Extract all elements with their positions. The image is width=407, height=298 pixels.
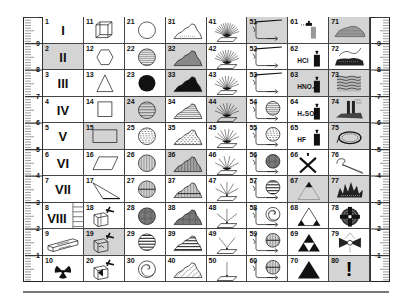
symbol-number: 13 [86,71,94,78]
symbol-cell-23: 23 [125,70,166,97]
ruler-label: 9 [36,40,40,47]
symbol-number: 58 [249,204,257,211]
symbol-number: 74 [331,98,339,105]
symbol-cell-27: 27 [125,176,166,203]
symbol-cell-4: 4IV [43,97,84,124]
ruler-label: 8 [36,66,40,73]
symbol-cell-42: 42 [207,44,248,71]
symbol-cell-22: 22 [125,44,166,71]
symbol-cell-39: 39 [166,229,207,256]
symbol-number: 64 [290,98,298,105]
symbol-cell-69: 69 [288,229,329,256]
roman-numeral: VI [43,156,83,171]
symbol-cell-80: 80! [329,256,370,283]
symbol-number: 62 [290,45,298,52]
symbol-cell-26: 26 [125,150,166,177]
symbol-cell-30: 30 [125,256,166,283]
symbol-number: 21 [127,18,135,25]
symbol-cell-14: 14 [84,97,125,124]
symbol-number: 22 [127,45,135,52]
symbol-cell-55: 55 [247,123,288,150]
symbol-cell-76: 76 [329,150,370,177]
symbol-number: 9 [45,230,49,237]
acid-label: H₂SO₄ [297,110,317,117]
ruler-label: 4 [36,172,40,179]
symbol-cell-32: 32 [166,44,207,71]
symbol-number: 30 [127,257,135,264]
roman-numeral: II [43,50,83,65]
ruler-label: 6 [36,119,40,126]
symbol-cell-2: 2II [43,44,84,71]
symbol-cell-74: 74 [329,97,370,124]
symbol-cell-52: 52 [247,44,288,71]
symbol-cell-12: 12 [84,44,125,71]
symbol-cell-34: 34 [166,97,207,124]
symbol-number: 11 [86,18,93,25]
symbol-number: 27 [127,177,135,184]
symbol-cell-59: 59 [247,229,288,256]
roman-numeral: V [43,129,83,144]
right-ruler: 987654321 [370,17,390,282]
symbol-number: 60 [249,257,257,264]
symbol-number: 35 [168,124,176,131]
symbol-number: 56 [249,151,257,158]
symbol-cell-19: 19 [84,229,125,256]
symbol-number: 59 [249,230,257,237]
symbol-number: 67 [290,177,298,184]
symbol-cell-33: 33 [166,70,207,97]
roman-numeral: III [43,76,83,91]
symbol-number: 23 [127,71,135,78]
symbol-number: 16 [86,151,94,158]
symbol-cell-35: 35 [166,123,207,150]
symbol-cell-49: 49 [207,229,248,256]
symbol-cell-79: 79 [329,229,370,256]
symbol-cell-57: 57 [247,176,288,203]
symbol-number: 71 [331,18,339,25]
symbol-cell-51: 51 [247,17,288,44]
symbol-number: 25 [127,124,135,131]
symbol-number: 66 [290,151,298,158]
exclamation-icon: ! [329,258,369,281]
ruler-label: 6 [377,119,381,126]
symbol-number: 26 [127,151,135,158]
roman-numeral: VII [43,182,83,197]
symbol-number: 38 [168,204,176,211]
acid-label: HNO₃ [297,83,314,90]
symbol-cell-25: 25 [125,123,166,150]
ruler-label: 5 [377,146,381,153]
symbol-number: 55 [249,124,257,131]
symbol-cell-8: 8VIII [43,203,84,230]
symbol-cell-75: 75 [329,123,370,150]
symbol-number: 10 [45,257,53,264]
acid-label: HCl [297,57,308,64]
symbol-number: 14 [86,98,94,105]
ruler-label: 1 [377,252,381,259]
symbol-cell-58: 58 [247,203,288,230]
symbol-cell-50: 50 [207,256,248,283]
symbol-number: 54 [249,98,257,105]
roman-numeral: I [43,23,83,38]
symbol-number: 29 [127,230,135,237]
symbol-number: 31 [168,18,176,25]
symbol-number: 32 [168,45,176,52]
symbol-number: 46 [209,151,217,158]
symbol-grid: 1I2II3III4IV5V6VI7VII8VIII91011121314151… [43,17,370,282]
symbol-number: 61 [290,18,298,25]
ruler-label: 3 [377,199,381,206]
symbol-number: 77 [331,177,339,184]
ruler-label: 5 [36,146,40,153]
symbol-cell-44: 44 [207,97,248,124]
symbol-cell-31: 31 [166,17,207,44]
symbol-cell-72: 72 [329,44,370,71]
symbol-number: 65 [290,124,298,131]
symbol-cell-61: 61 [288,17,329,44]
symbol-number: 41 [209,18,217,25]
symbol-cell-20: 20 [84,256,125,283]
symbol-cell-1: 1I [43,17,84,44]
ruler-label: 4 [377,172,381,179]
roman-numeral: VIII [43,211,71,226]
symbol-number: 18 [86,204,94,211]
symbol-cell-9: 9 [43,229,84,256]
symbol-cell-17: 17 [84,176,125,203]
symbol-number: 19 [86,230,94,237]
